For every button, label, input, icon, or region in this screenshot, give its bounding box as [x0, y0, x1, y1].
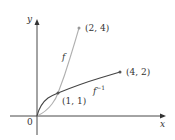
point-4-2 — [119, 71, 122, 74]
point-1-1-label: (1, 1) — [62, 97, 86, 106]
x-axis-arrow-icon — [160, 114, 166, 119]
point-2-4 — [78, 27, 81, 30]
point-1-1 — [57, 92, 60, 95]
point-4-2-label: (4, 2) — [126, 68, 150, 77]
y-axis-label: y — [27, 15, 32, 24]
f-inverse-label: f−1 — [93, 85, 105, 96]
origin-label: 0 — [27, 118, 33, 127]
f-label: f — [62, 53, 65, 62]
curve-f-inverse — [37, 72, 120, 116]
x-axis-label: x — [160, 120, 165, 129]
point-2-4-label: (2, 4) — [85, 24, 109, 33]
y-axis-arrow-icon — [35, 19, 40, 25]
